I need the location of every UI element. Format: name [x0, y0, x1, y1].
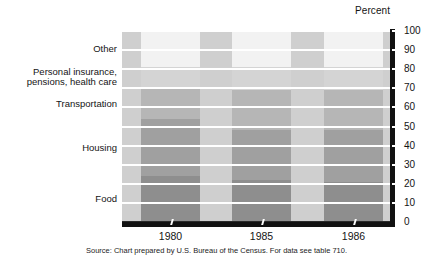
y-axis-tick-label: 10 [404, 198, 415, 208]
y-axis-tick-label: 0 [404, 217, 410, 227]
category-label-personal-insurance-pensions-health-care: Personal insurance, pensions, health car… [1, 67, 117, 88]
gridline-overlay [122, 183, 392, 185]
chart-figure: Percent OtherPersonal insurance, pension… [0, 0, 433, 264]
y-axis-tick-mark [392, 183, 400, 185]
gridline-overlay [122, 31, 392, 32]
gridline-overlay [122, 68, 392, 70]
y-axis-tick-mark [392, 87, 400, 89]
bar-segment-transportation [232, 90, 291, 130]
bar-segment-personal-insurance-pensions-health-care [141, 67, 200, 88]
y-axis-title: Percent [355, 5, 390, 16]
category-label-housing: Housing [82, 143, 117, 154]
y-axis-tick-label: 60 [404, 102, 415, 112]
y-axis-tick-label: 100 [404, 26, 421, 36]
gridline-overlay [122, 164, 392, 166]
y-axis-tick-label: 80 [404, 64, 415, 74]
y-axis-tick-mark [392, 30, 400, 32]
y-axis-tick-label: 30 [404, 160, 415, 170]
x-axis-tick-label: 1980 [141, 230, 201, 242]
gridline-overlay [122, 87, 392, 89]
y-axis-tick-label: 90 [404, 45, 415, 55]
plot-area [122, 31, 392, 222]
bar-segment-transportation [324, 90, 383, 130]
bar-segment-housing [324, 130, 383, 182]
gridline-overlay [122, 106, 392, 108]
y-axis-tick-mark [392, 126, 400, 128]
y-axis-tick-mark [392, 49, 400, 51]
y-axis-tick-mark [392, 164, 400, 166]
category-label-transportation: Transportation [56, 99, 117, 110]
bar-segment-housing [232, 130, 291, 180]
gridline-overlay [122, 126, 392, 128]
y-axis-tick-mark [392, 68, 400, 70]
gridline-overlay [122, 145, 392, 147]
category-label-food: Food [95, 194, 117, 205]
y-axis-tick-mark [392, 106, 400, 108]
y-axis-tick-label: 70 [404, 83, 415, 93]
bar-segment-transportation [141, 88, 200, 119]
x-axis-tick-label: 1986 [324, 230, 384, 242]
y-axis-tick-mark [392, 145, 400, 147]
gridline-overlay [122, 49, 392, 51]
gridline-overlay [122, 202, 392, 204]
y-axis-tick-mark [392, 202, 400, 204]
category-label-group: OtherPersonal insurance, pensions, healt… [0, 0, 120, 230]
y-axis-tick-label: 20 [404, 179, 415, 189]
y-axis-tick-label: 50 [404, 122, 415, 132]
y-axis-tick-label: 40 [404, 141, 415, 151]
source-note: Source: Chart prepared by U.S. Bureau of… [0, 246, 433, 255]
x-axis-tick-label: 1985 [232, 230, 292, 242]
category-label-other: Other [93, 44, 117, 55]
